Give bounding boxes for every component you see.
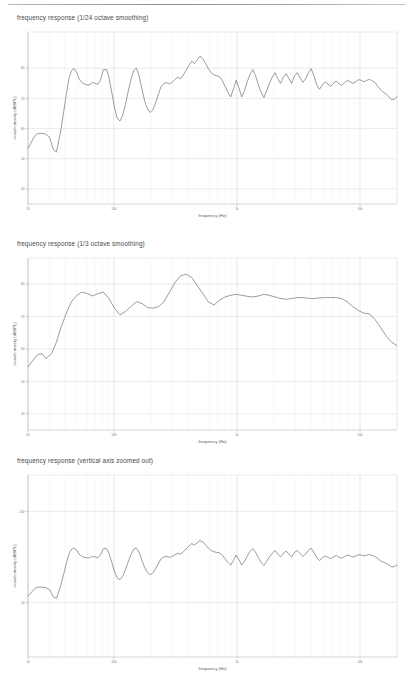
chart-svg: 101001k10k8070605040frequency (Hz)sound … bbox=[0, 252, 412, 462]
x-axis-label: frequency (Hz) bbox=[198, 213, 227, 218]
x-tick-label: 10k bbox=[357, 660, 363, 664]
response-curve bbox=[28, 274, 397, 366]
y-tick-label: 50 bbox=[21, 380, 25, 384]
chart-svg: 101001k10k10050frequency (Hz)sound inten… bbox=[0, 469, 412, 691]
chart-svg: 101001k10k8070605040frequency (Hz)sound … bbox=[0, 26, 412, 236]
y-tick-label: 70 bbox=[21, 97, 25, 101]
y-tick-label: 60 bbox=[21, 347, 25, 351]
y-tick-label: 100 bbox=[19, 510, 25, 514]
plot-area: 101001k10k10050frequency (Hz)sound inten… bbox=[0, 469, 412, 691]
figure-title: frequency response (1/3 octave smoothing… bbox=[17, 240, 145, 247]
x-tick-label: 100 bbox=[111, 433, 117, 437]
plot-area: 101001k10k8070605040frequency (Hz)sound … bbox=[0, 26, 412, 236]
figure-title: frequency response (1/24 octave smoothin… bbox=[17, 14, 149, 21]
response-curve bbox=[28, 56, 397, 152]
y-tick-label: 80 bbox=[21, 66, 25, 70]
plot-area: 101001k10k8070605040frequency (Hz)sound … bbox=[0, 252, 412, 462]
response-curve bbox=[28, 541, 397, 599]
x-tick-label: 10 bbox=[26, 660, 30, 664]
x-axis-label: frequency (Hz) bbox=[198, 666, 227, 671]
figure-title: frequency response (vertical axis zoomed… bbox=[17, 457, 153, 464]
y-axis-label: sound intensity (dBSPL) bbox=[12, 544, 17, 588]
x-tick-label: 1k bbox=[235, 660, 239, 664]
x-axis-label: frequency (Hz) bbox=[198, 439, 227, 444]
x-tick-label: 1k bbox=[235, 433, 239, 437]
y-tick-label: 70 bbox=[21, 315, 25, 319]
x-tick-label: 100 bbox=[111, 207, 117, 211]
y-tick-label: 80 bbox=[21, 282, 25, 286]
y-tick-label: 40 bbox=[21, 187, 25, 191]
y-tick-label: 40 bbox=[21, 412, 25, 416]
y-tick-label: 50 bbox=[21, 157, 25, 161]
x-tick-label: 10k bbox=[357, 433, 363, 437]
y-axis-label: sound intensity (dBSPL) bbox=[12, 96, 17, 140]
y-tick-label: 50 bbox=[21, 601, 25, 605]
y-axis-label: sound intensity (dBSPL) bbox=[12, 322, 17, 366]
x-tick-label: 10k bbox=[357, 207, 363, 211]
x-tick-label: 1k bbox=[235, 207, 239, 211]
x-tick-label: 10 bbox=[26, 207, 30, 211]
x-tick-label: 10 bbox=[26, 433, 30, 437]
header-rule bbox=[8, 4, 406, 5]
y-tick-label: 60 bbox=[21, 127, 25, 131]
x-tick-label: 100 bbox=[111, 660, 117, 664]
document-page: frequency response (1/24 octave smoothin… bbox=[0, 0, 412, 692]
